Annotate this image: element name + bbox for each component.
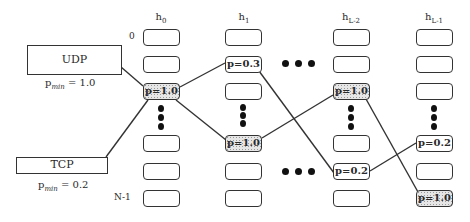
cell-hL1-row1 [416, 56, 453, 73]
row-label-last: N-1 [114, 192, 131, 202]
column-label-hL-1: hL-1 [414, 11, 454, 25]
edge-h1-hL2-down [259, 71, 334, 173]
cell-hL1-row2 [416, 83, 453, 100]
cell-h0-row2-highlighted: p=1.0 [143, 83, 180, 100]
cell-hL1-row3: p=0.2 [416, 135, 453, 152]
cell-h0-row0 [143, 29, 180, 46]
cell-h1-row4 [225, 163, 262, 180]
cell-hL2-row0 [333, 29, 370, 46]
cell-h1-row3-highlighted: p=1.0 [225, 135, 262, 152]
ellipsis-dot [348, 114, 354, 121]
ellipsis-dot [240, 112, 246, 119]
hash-pipeline-diagram: h0 h1 hL-2 hL-1 0 N-1 UDP pmin = 1.0 TCP… [0, 0, 470, 222]
horizontal-ellipsis-dot [295, 60, 302, 67]
horizontal-ellipsis-dot [295, 168, 302, 175]
ellipsis-dot [431, 105, 437, 112]
ellipsis-dot [240, 104, 246, 111]
cell-h1-row0 [225, 29, 262, 46]
column-label-hL-2: hL-2 [331, 11, 371, 25]
cell-h0-row5 [143, 190, 180, 207]
cell-h0-row3 [143, 135, 180, 152]
ellipsis-dot [240, 120, 246, 127]
udp-pmin-label: pmin = 1.0 [45, 77, 95, 91]
cell-h1-row2 [225, 83, 262, 100]
edge-udp-h0 [121, 67, 143, 86]
cell-hL2-row2-highlighted: p=1.0 [333, 83, 370, 100]
cell-h0-row4 [143, 163, 180, 180]
column-label-h1: h1 [224, 11, 264, 25]
horizontal-ellipsis-dot [308, 168, 315, 175]
ellipsis-dot [348, 105, 354, 112]
ellipsis-dot [431, 123, 437, 130]
cell-hL2-row5 [333, 190, 370, 207]
edge-h0-h1-top [180, 63, 225, 87]
udp-box: UDP [27, 45, 122, 75]
ellipsis-dot [158, 105, 164, 112]
cell-hL1-row4 [416, 163, 453, 180]
ellipsis-dot [348, 123, 354, 130]
tcp-box: TCP [16, 157, 108, 174]
cell-hL2-row3 [333, 135, 370, 152]
cell-h1-row1: p=0.3 [225, 56, 262, 73]
edge-tcp-h0 [106, 100, 148, 157]
tcp-pmin-label: pmin = 0.2 [38, 179, 88, 193]
horizontal-ellipsis-dot [308, 60, 315, 67]
ellipsis-dot [158, 123, 164, 130]
cell-hL1-row5-highlighted: p=1.0 [416, 190, 453, 207]
edge-hL2-hL1-down [366, 99, 418, 192]
horizontal-ellipsis-dot [282, 60, 289, 67]
edge-h1-hL2-up [262, 95, 333, 138]
horizontal-ellipsis-dot [282, 168, 289, 175]
edge-h0-h1-bottom [176, 100, 226, 140]
cell-h1-row5 [225, 190, 262, 207]
cell-hL2-row1 [333, 56, 370, 73]
column-label-h0: h0 [141, 11, 181, 25]
ellipsis-dot [431, 114, 437, 121]
ellipsis-dot [158, 114, 164, 121]
cell-h0-row1 [143, 56, 180, 73]
cell-hL1-row0 [416, 29, 453, 46]
row-label-first: 0 [129, 31, 135, 41]
cell-hL2-row4: p=0.2 [333, 163, 370, 180]
